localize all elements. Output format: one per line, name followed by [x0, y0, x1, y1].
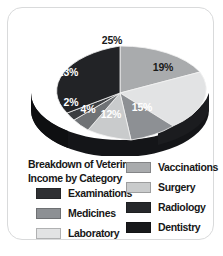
legend-swatch-surgery	[126, 182, 151, 193]
legend-label-examinations: Examinations	[68, 187, 132, 199]
legend-item-examinations: Examinations	[36, 184, 132, 202]
legend-swatch-medicines	[36, 208, 61, 219]
legend-swatch-laboratory	[36, 228, 61, 239]
screenshot-root: 25% 19% 15% 12% 4% 2% 23% Breakdown of V…	[0, 0, 223, 256]
legend-swatch-radiology	[126, 202, 151, 213]
pie-chart-svg: 25% 19% 15% 12% 4% 2% 23%	[8, 14, 223, 156]
pie-label-25: 25%	[102, 34, 123, 46]
legend-label-surgery: Surgery	[158, 181, 195, 193]
legend-label-vaccinations: Vaccinations	[158, 161, 218, 173]
legend-column-right: Vaccinations Surgery Radiology Dentistry	[126, 158, 218, 238]
legend-swatch-dentistry	[126, 222, 151, 233]
legend-item-dentistry: Dentistry	[126, 218, 218, 236]
legend-label-medicines: Medicines	[68, 207, 116, 219]
legend-item-medicines: Medicines	[36, 204, 132, 222]
legend-label-dentistry: Dentistry	[158, 221, 200, 233]
pie-label-23: 23%	[58, 66, 79, 78]
legend-item-laboratory: Laboratory	[36, 224, 132, 242]
pie-label-4: 4%	[81, 103, 97, 115]
legend-column-left: Examinations Medicines Laboratory	[36, 184, 132, 244]
pie-label-19: 19%	[153, 61, 174, 73]
legend-item-surgery: Surgery	[126, 178, 218, 196]
legend-label-laboratory: Laboratory	[68, 227, 119, 239]
legend-swatch-examinations	[36, 188, 61, 199]
legend-item-radiology: Radiology	[126, 198, 218, 216]
pie-chart: 25% 19% 15% 12% 4% 2% 23%	[8, 14, 223, 154]
legend-item-vaccinations: Vaccinations	[126, 158, 218, 176]
legend-swatch-vaccinations	[126, 162, 151, 173]
legend-label-radiology: Radiology	[158, 201, 206, 213]
pie-label-2: 2%	[64, 96, 80, 108]
chart-legend: Examinations Medicines Laboratory Vaccin…	[8, 158, 223, 244]
chart-card: 25% 19% 15% 12% 4% 2% 23% Breakdown of V…	[7, 7, 214, 240]
pie-label-12: 12%	[101, 108, 122, 120]
pie-label-15: 15%	[132, 101, 153, 113]
